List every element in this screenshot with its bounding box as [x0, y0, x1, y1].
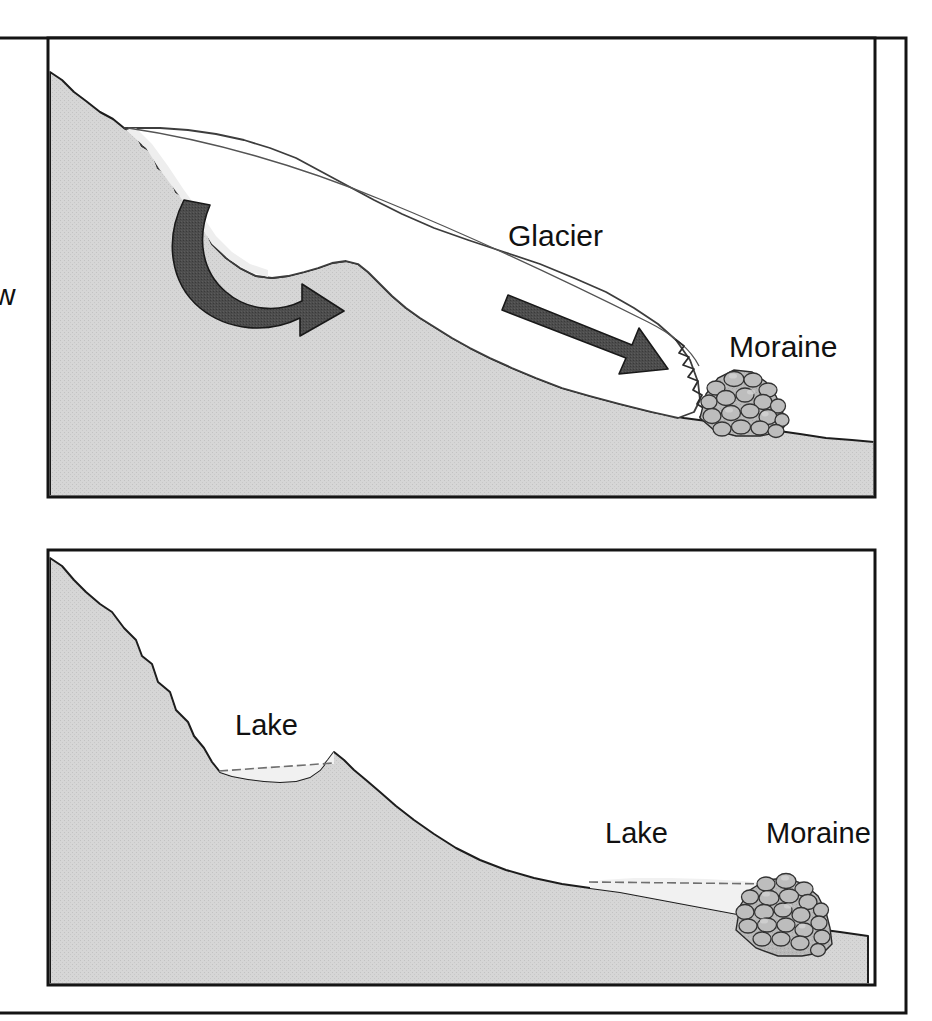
panel-post-glacial: Lake Lake Moraine: [48, 550, 875, 985]
moraine-label-bottom: Moraine: [766, 817, 871, 849]
cropped-edge-text: w: [0, 278, 16, 311]
figure-root: w: [0, 0, 932, 1021]
glacier-label: Glacier: [508, 219, 603, 252]
lake-label-lower: Lake: [605, 817, 668, 849]
lake-label-upper: Lake: [235, 709, 298, 741]
moraine-label-top: Moraine: [729, 330, 837, 363]
glacial-landform-diagram: w: [0, 0, 932, 1021]
panel-glacier-active: Glacier Moraine: [48, 38, 875, 497]
